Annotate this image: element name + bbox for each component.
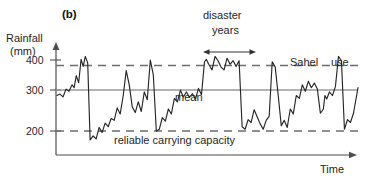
- y-axis-title-line1: Rainfall: [6, 32, 43, 44]
- y-tick-label-300: 300: [26, 84, 44, 96]
- x-axis-title: Time: [320, 163, 344, 175]
- y-tick-label-200: 200: [26, 125, 44, 137]
- y-axis: [53, 42, 60, 155]
- disaster-annotation-line2: years: [212, 24, 239, 36]
- carrying-capacity-label: reliable carrying capacity: [114, 134, 235, 146]
- rainfall-variability-figure: (b) Rainfall (mm) 400 300 200 Time disas…: [0, 0, 371, 181]
- y-tick-label-400: 400: [26, 54, 44, 66]
- x-axis: [56, 152, 357, 159]
- mean-line-label: mean: [175, 91, 203, 103]
- sahel-use-label-part2: use: [331, 56, 349, 68]
- disaster-years-span-arrow: [203, 49, 256, 54]
- panel-letter: (b): [62, 8, 77, 20]
- sahel-use-label-part1: Sahel: [290, 56, 318, 68]
- rainfall-data-line: [57, 56, 358, 139]
- disaster-annotation-line1: disaster: [203, 9, 242, 21]
